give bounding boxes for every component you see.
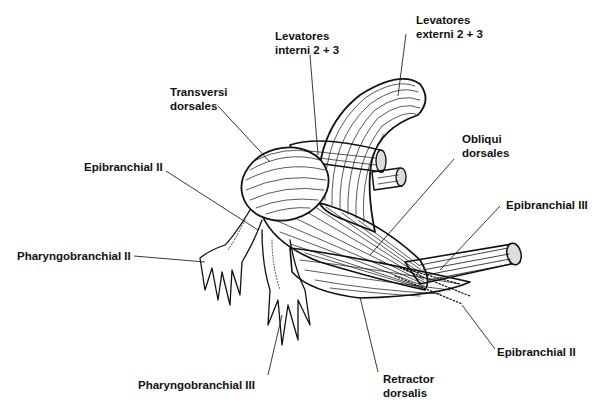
label-levatores-interni: Levatores interni 2 + 3 (275, 29, 339, 57)
label-retractor-dorsalis: Retractor dorsalis (383, 372, 434, 400)
muscle-diagram: Levatores interni 2 + 3 Levatores extern… (0, 0, 603, 408)
levatores-externi-muscle (318, 79, 426, 232)
label-pharyngobranchial-iii: Pharyngobranchial III (138, 378, 255, 392)
label-pharyngobranchial-ii: Pharyngobranchial II (17, 249, 131, 263)
label-transversi-dorsales: Transversi dorsales (170, 85, 228, 113)
label-epibranchial-ii-upper: Epibranchial II (84, 160, 163, 174)
label-epibranchial-ii-lower: Epibranchial II (497, 345, 576, 359)
pharyngobranchial-iii-bone (262, 230, 310, 345)
label-epibranchial-iii: Epibranchial III (506, 198, 588, 212)
transversi-dorsales-muscle (233, 138, 337, 230)
pharyngobranchial-ii-bone (200, 210, 262, 305)
label-levatores-externi: Levatores externi 2 + 3 (416, 13, 483, 41)
label-obliqui-dorsales: Obliqui dorsales (462, 132, 509, 160)
